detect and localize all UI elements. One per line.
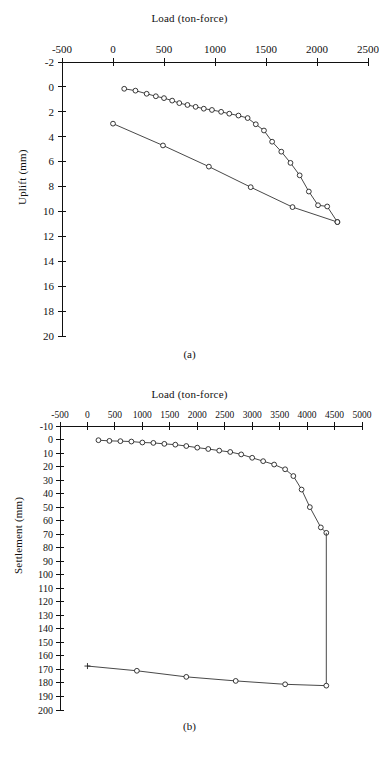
x-tick-label: 2500 xyxy=(357,43,379,55)
data-point-marker xyxy=(161,143,166,148)
data-point-marker xyxy=(306,189,311,194)
y-tick-label: 20 xyxy=(43,330,55,342)
y-tick-label: 200 xyxy=(38,705,53,716)
y-tick-label: 16 xyxy=(43,280,55,292)
data-point-marker xyxy=(325,204,330,209)
data-point-marker xyxy=(133,88,138,93)
data-point-marker xyxy=(195,445,200,450)
x-tick-label: -500 xyxy=(51,410,69,420)
x-tick-label: 2000 xyxy=(188,410,207,420)
x-tick-label: 1000 xyxy=(204,43,227,55)
data-point-marker xyxy=(129,439,134,444)
chart-b-plot: -500050010001500200025003000350040004500… xyxy=(0,380,379,757)
data-point-marker xyxy=(173,442,178,447)
data-point-marker xyxy=(162,96,167,101)
x-tick-label: 0 xyxy=(85,410,90,420)
data-point-marker xyxy=(335,220,340,225)
data-point-marker xyxy=(162,441,167,446)
series-line-rebound xyxy=(87,666,326,686)
data-point-marker xyxy=(283,682,288,687)
data-point-marker xyxy=(291,474,296,479)
y-tick-label: 8 xyxy=(49,180,55,192)
data-point-marker xyxy=(111,121,116,126)
x-tick-label: 1000 xyxy=(133,410,152,420)
y-tick-label: 70 xyxy=(43,529,53,540)
data-point-plus xyxy=(84,663,90,669)
y-tick-label: 0 xyxy=(49,81,55,93)
chart-a-caption: (a) xyxy=(0,348,379,360)
figure-panel-a: Load (ton-force) Uplift (mm) -5000500100… xyxy=(0,0,379,380)
x-tick-label: 500 xyxy=(156,43,173,55)
data-point-marker xyxy=(228,450,233,455)
y-tick-label: 160 xyxy=(38,650,53,661)
data-point-marker xyxy=(206,164,211,169)
y-tick-label: 20 xyxy=(43,461,53,472)
x-tick-label: 500 xyxy=(108,410,123,420)
data-point-marker xyxy=(107,438,112,443)
x-tick-label: 3500 xyxy=(270,410,289,420)
x-tick-label: 2000 xyxy=(306,43,329,55)
y-tick-label: 120 xyxy=(38,596,53,607)
y-tick-label: 50 xyxy=(43,502,53,513)
data-point-marker xyxy=(279,149,284,154)
data-point-marker xyxy=(177,101,182,106)
x-tick-label: 0 xyxy=(110,43,116,55)
x-tick-label: 2500 xyxy=(215,410,234,420)
y-tick-label: 0 xyxy=(48,434,53,445)
data-point-marker xyxy=(140,440,145,445)
x-tick-label: 3000 xyxy=(243,410,262,420)
data-point-marker xyxy=(283,467,288,472)
y-tick-label: 10 xyxy=(43,205,55,217)
data-point-marker xyxy=(122,86,127,91)
data-point-marker xyxy=(324,683,329,688)
y-tick-label: 170 xyxy=(38,664,53,675)
series-line-unloading xyxy=(113,124,337,222)
data-point-marker xyxy=(153,94,158,99)
data-point-marker xyxy=(170,98,175,103)
y-tick-label: 6 xyxy=(49,155,55,167)
data-point-marker xyxy=(118,439,123,444)
data-point-marker xyxy=(184,674,189,679)
series-line-loading xyxy=(124,89,337,222)
data-point-marker xyxy=(245,116,250,121)
data-point-marker xyxy=(227,111,232,116)
x-tick-label: 5000 xyxy=(353,410,372,420)
data-point-marker xyxy=(270,139,275,144)
data-point-marker xyxy=(96,438,101,443)
x-tick-label: 1500 xyxy=(160,410,179,420)
y-tick-label: -2 xyxy=(45,56,54,68)
y-tick-label: 130 xyxy=(38,610,53,621)
x-tick-label: 1500 xyxy=(255,43,278,55)
data-point-marker xyxy=(206,447,211,452)
data-point-marker xyxy=(185,103,190,108)
data-point-marker xyxy=(151,441,156,446)
data-point-marker xyxy=(239,452,244,457)
y-tick-label: 14 xyxy=(43,255,55,267)
y-tick-label: 180 xyxy=(38,677,53,688)
data-point-marker xyxy=(201,106,206,111)
y-tick-label: 4 xyxy=(49,131,55,143)
data-point-marker xyxy=(184,444,189,449)
data-point-marker xyxy=(299,487,304,492)
data-point-marker xyxy=(248,185,253,190)
data-point-marker xyxy=(288,160,293,165)
data-point-marker xyxy=(219,109,224,114)
y-tick-label: 10 xyxy=(43,448,53,459)
y-tick-label: 30 xyxy=(43,475,53,486)
data-point-marker xyxy=(210,108,215,113)
y-tick-label: 100 xyxy=(38,569,53,580)
y-tick-label: 40 xyxy=(43,488,53,499)
y-tick-label: 110 xyxy=(38,583,53,594)
y-tick-label: 2 xyxy=(49,106,55,118)
y-tick-label: 190 xyxy=(38,691,53,702)
y-tick-label: 150 xyxy=(38,637,53,648)
data-point-marker xyxy=(297,173,302,178)
data-point-marker xyxy=(144,91,149,96)
data-point-marker xyxy=(307,505,312,510)
x-tick-label: 4500 xyxy=(325,410,344,420)
y-tick-label: 18 xyxy=(43,305,55,317)
data-point-marker xyxy=(250,455,255,460)
data-point-marker xyxy=(318,525,323,530)
data-point-marker xyxy=(262,128,267,133)
chart-b-caption: (b) xyxy=(0,720,379,732)
